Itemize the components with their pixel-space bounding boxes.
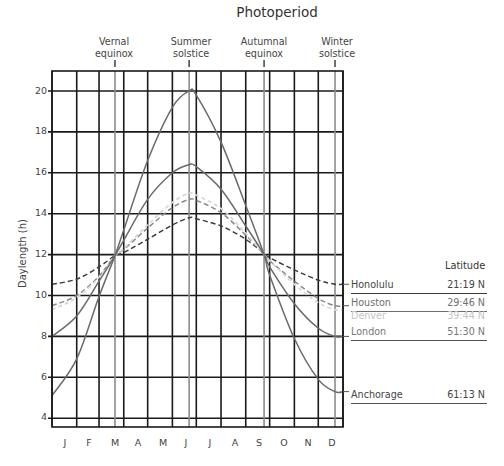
curve-houston xyxy=(52,199,343,307)
legend-name: Anchorage xyxy=(351,389,403,400)
plot-border xyxy=(52,71,343,427)
legend-item-anchorage: Anchorage 61:13 N xyxy=(351,389,487,403)
legend-item-denver: Denver 39:44 N xyxy=(351,310,487,324)
curve-anchorage xyxy=(52,89,343,396)
curve-denver xyxy=(52,193,343,311)
legend-name: Honolulu xyxy=(351,279,394,290)
legend-latitude: 29:46 N xyxy=(447,297,485,308)
legend-latitude: 51:30 N xyxy=(447,326,485,337)
legend-item-london: London 51:30 N xyxy=(351,326,487,340)
curve-honolulu xyxy=(52,217,343,284)
legend-rule xyxy=(351,403,487,405)
legend-header: Latitude xyxy=(445,260,485,271)
plot-frame xyxy=(52,71,349,427)
legend-latitude: 61:13 N xyxy=(447,389,485,400)
curve-london xyxy=(52,164,343,337)
grid xyxy=(48,60,343,427)
legend-name: Denver xyxy=(351,310,386,321)
legend-latitude: 21:19 N xyxy=(447,279,485,290)
legend-item-honolulu: Honolulu 21:19 N xyxy=(351,279,487,293)
legend-latitude: 39:44 N xyxy=(447,310,485,321)
legend-name: London xyxy=(351,326,386,337)
legend-item-houston: Houston 29:46 N xyxy=(351,297,487,311)
curves xyxy=(52,89,343,396)
legend-rule xyxy=(351,340,487,342)
legend-name: Houston xyxy=(351,297,391,308)
legend-rule xyxy=(351,293,487,295)
